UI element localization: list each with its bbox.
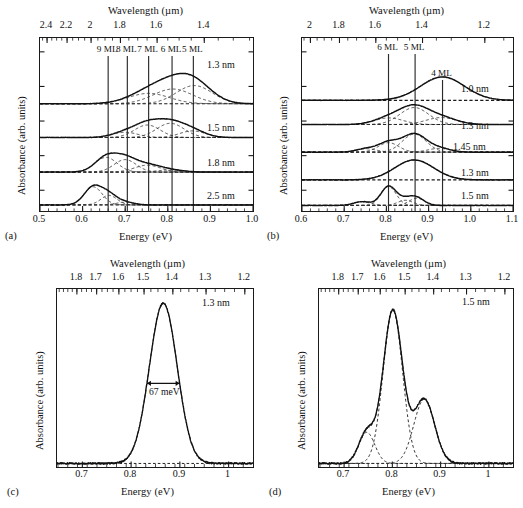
panel-b-bottom-ticklabels: 0.60.70.80.91.01.1 bbox=[262, 213, 523, 226]
panel-d-curves bbox=[319, 289, 513, 467]
panel-d-sample-label: 1.5 nm bbox=[462, 296, 490, 307]
panel-c-bottom-ticklabels: 0.70.80.91 bbox=[0, 468, 262, 481]
fwhm-annotation: 67 meV bbox=[149, 386, 180, 397]
tick-label: 0.7 bbox=[337, 468, 350, 479]
monolayer-marker-label: 4 ML bbox=[431, 68, 452, 78]
panel-b-y-axis-title: Absorbance (arb. units) bbox=[278, 96, 289, 195]
tick-label: 1.8 bbox=[70, 271, 83, 282]
tick-label: 0.9 bbox=[433, 468, 446, 479]
spectrum-sample-label: 1.0 nm bbox=[461, 83, 489, 94]
panel-b-top-axis-title: Wavelength (µm) bbox=[300, 5, 513, 16]
tick-label: 0.9 bbox=[173, 468, 186, 479]
monolayer-marker-label: 7 ML bbox=[137, 44, 158, 54]
monolayer-marker-label: 5 ML bbox=[404, 42, 425, 52]
panel-a-top-axis-title: Wavelength (µm) bbox=[38, 5, 253, 16]
tick-label: 0.8 bbox=[379, 213, 392, 224]
spectrum-sample-label: 1.8 nm bbox=[207, 157, 235, 168]
tick-label: 1.6 bbox=[150, 19, 163, 30]
tick-label: 1.4 bbox=[426, 271, 439, 282]
tick-label: 1.5 bbox=[137, 271, 150, 282]
tick-label: 1.6 bbox=[112, 271, 125, 282]
panel-d-y-axis-title: Absorbance (arb. units) bbox=[296, 351, 307, 450]
panel-c-y-axis-title: Absorbance (arb. units) bbox=[34, 351, 45, 450]
panel-d-bottom-axis-title: Energy (eV) bbox=[307, 486, 510, 497]
panel-d-letter: (d) bbox=[269, 486, 281, 497]
tick-label: 0.9 bbox=[203, 213, 216, 224]
tick-label: 1.1 bbox=[506, 213, 519, 224]
spectrum-sample-label: 1.3 nm bbox=[461, 120, 489, 131]
tick-label: 0.7 bbox=[337, 213, 350, 224]
tick-label: 2.2 bbox=[60, 19, 73, 30]
panel-a-bottom-ticklabels: 0.50.60.70.80.91.0 bbox=[0, 213, 262, 226]
tick-label: 0.8 bbox=[385, 468, 398, 479]
tick-label: 1.2 bbox=[238, 271, 251, 282]
tick-label: 1.3 bbox=[459, 271, 472, 282]
panel-d: Wavelength (µm) 1.81.71.61.51.41.31.2 0.… bbox=[262, 254, 523, 508]
panel-b: Wavelength (µm) 21.81.61.41.2 0.60.70.80… bbox=[262, 0, 523, 254]
spectrum-sample-label: 2.5 nm bbox=[207, 190, 235, 201]
panel-a-y-axis-title: Absorbance (arb. units) bbox=[16, 96, 27, 195]
panel-c-sample-label: 1.3 nm bbox=[202, 297, 230, 308]
panel-b-top-ticklabels: 21.81.61.41.2 bbox=[262, 19, 523, 32]
tick-label: 1.6 bbox=[373, 271, 386, 282]
tick-label: 0.6 bbox=[75, 213, 88, 224]
spectrum-sample-label: 1.3 nm bbox=[207, 59, 235, 70]
tick-label: 2.4 bbox=[40, 19, 53, 30]
tick-label: 1 bbox=[485, 468, 490, 479]
panel-c-letter: (c) bbox=[7, 486, 19, 497]
monolayer-marker-label: 5 ML bbox=[182, 44, 203, 54]
tick-label: 1.6 bbox=[369, 19, 382, 30]
panel-d-bottom-ticklabels: 0.70.80.91 bbox=[262, 468, 523, 481]
panel-a: Wavelength (µm) 2.42.221.81.61.4 0.50.60… bbox=[0, 0, 262, 254]
monolayer-marker-label: 6 ML bbox=[161, 44, 182, 54]
spectrum-sample-label: 1.3 nm bbox=[461, 167, 489, 178]
spectrum-sample-label: 1.45 nm bbox=[453, 141, 486, 152]
tick-label: 0.8 bbox=[124, 468, 137, 479]
tick-label: 1.4 bbox=[415, 19, 428, 30]
panel-c-bottom-axis-title: Energy (eV) bbox=[45, 486, 250, 497]
tick-label: 1.8 bbox=[332, 19, 345, 30]
panel-a-bottom-axis-title: Energy (eV) bbox=[38, 231, 253, 242]
tick-label: 0.7 bbox=[118, 213, 131, 224]
panel-c-top-axis-title: Wavelength (µm) bbox=[45, 258, 250, 269]
panel-a-top-ticklabels: 2.42.221.81.61.4 bbox=[0, 19, 262, 32]
panel-c-top-ticklabels: 1.81.71.61.51.41.31.2 bbox=[0, 271, 262, 284]
panel-a-letter: (a) bbox=[5, 230, 17, 241]
tick-label: 1.4 bbox=[166, 271, 179, 282]
panel-c-curves bbox=[57, 289, 253, 467]
tick-label: 0.8 bbox=[161, 213, 174, 224]
panel-c: Wavelength (µm) 1.81.71.61.51.41.31.2 0.… bbox=[0, 254, 262, 508]
tick-label: 1.8 bbox=[113, 19, 126, 30]
panel-c-plot-area bbox=[56, 288, 254, 468]
tick-label: 2 bbox=[88, 19, 93, 30]
figure-absorbance-spectra: Wavelength (µm) 2.42.221.81.61.4 0.50.60… bbox=[0, 0, 523, 508]
tick-label: 1.2 bbox=[498, 271, 511, 282]
tick-label: 0.5 bbox=[33, 213, 46, 224]
tick-label: 1.7 bbox=[351, 271, 364, 282]
tick-label: 2 bbox=[307, 19, 312, 30]
tick-label: 0.6 bbox=[295, 213, 308, 224]
panel-b-letter: (b) bbox=[267, 230, 279, 241]
tick-label: 0.7 bbox=[75, 468, 88, 479]
panel-d-top-ticklabels: 1.81.71.61.51.41.31.2 bbox=[262, 271, 523, 284]
panel-b-bottom-axis-title: Energy (eV) bbox=[300, 231, 513, 242]
tick-label: 1.8 bbox=[331, 271, 344, 282]
monolayer-marker-label: 8 ML bbox=[116, 44, 137, 54]
tick-label: 1.5 bbox=[398, 271, 411, 282]
panel-d-top-axis-title: Wavelength (µm) bbox=[307, 258, 510, 269]
spectrum-sample-label: 1.5 nm bbox=[207, 122, 235, 133]
monolayer-marker-label: 6 ML bbox=[377, 42, 398, 52]
tick-label: 1.0 bbox=[464, 213, 477, 224]
tick-label: 1.3 bbox=[199, 271, 212, 282]
spectrum-sample-label: 1.5 nm bbox=[461, 190, 489, 201]
panel-d-plot-area bbox=[318, 288, 514, 468]
monolayer-marker-label: 9 ML bbox=[97, 44, 118, 54]
tick-label: 1.7 bbox=[89, 271, 102, 282]
tick-label: 1.4 bbox=[197, 19, 210, 30]
tick-label: 1.0 bbox=[246, 213, 259, 224]
tick-label: 1 bbox=[225, 468, 230, 479]
tick-label: 0.9 bbox=[421, 213, 434, 224]
tick-label: 1.2 bbox=[478, 19, 491, 30]
